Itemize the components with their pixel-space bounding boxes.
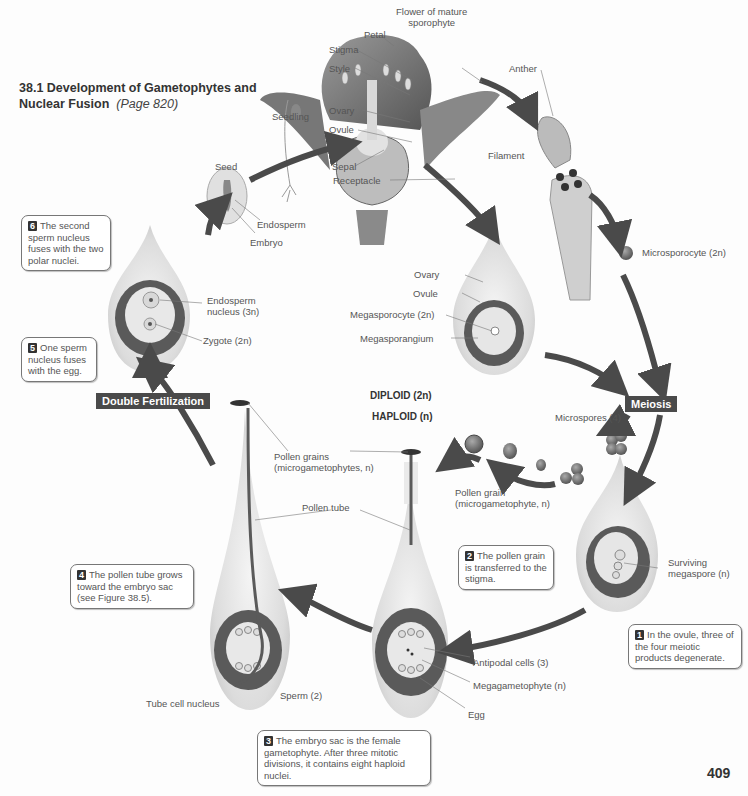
label-egg: Egg <box>468 709 485 720</box>
label-stigma: Stigma <box>329 44 359 55</box>
surviving-megaspore-ovule-illustration <box>576 455 658 612</box>
microsporocyte-cell <box>619 246 633 260</box>
label-style: Style <box>329 63 350 74</box>
haploid-legend: HAPLOID (n) <box>372 411 433 422</box>
label-filament: Filament <box>488 150 524 161</box>
page-reference: (Page 820) <box>116 97 178 111</box>
label-anther: Anther <box>509 63 537 74</box>
label-seed: Seed <box>215 161 237 172</box>
label-antipodal-cells: Antipodal cells (3) <box>473 657 549 668</box>
label-embryo: Embryo <box>250 237 283 248</box>
callout-step-6: 6The second sperm nucleus fuses with the… <box>21 215 111 271</box>
developing-microspores <box>465 435 584 485</box>
label-ovule-flower: Ovule <box>329 124 354 135</box>
title-line-2: Nuclear Fusion <box>19 97 109 111</box>
label-surviving-megaspore: Survivingmegaspore (n) <box>668 557 730 579</box>
label-zygote: Zygote (2n) <box>203 335 252 346</box>
meiosis-tag: Meiosis <box>625 396 677 412</box>
anther-illustration <box>538 117 592 300</box>
callout-step-3: 3The embryo sac is the female gametophyt… <box>257 730 431 786</box>
megasporocyte-ovule-illustration <box>453 225 535 375</box>
label-sepal: Sepal <box>332 161 356 172</box>
label-ovary-flower: Ovary <box>329 105 354 116</box>
label-petal: Petal <box>364 29 386 40</box>
step-number-badge: 3 <box>264 736 273 746</box>
callout-step-4: 4The pollen tube grows toward the embryo… <box>70 564 194 609</box>
label-endosperm: Endosperm <box>257 219 306 230</box>
callout-step-2: 2The pollen grain is transferred to the … <box>458 545 554 590</box>
label-tube-cell-nucleus: Tube cell nucleus <box>146 698 220 709</box>
flower-caption: Flower of maturesporophyte <box>396 6 467 28</box>
figure-title: 38.1 Development of Gametophytes and Nuc… <box>19 80 257 112</box>
label-pollen-grains: Pollen grains(microgametophytes, n) <box>274 451 374 473</box>
label-endosperm-nucleus: Endospermnucleus (3n) <box>207 295 259 317</box>
label-megasporangium: Megasporangium <box>360 333 433 344</box>
megagametophyte-ovule-illustration <box>372 449 448 718</box>
flower-illustration <box>260 35 500 245</box>
label-pollen-tube: Pollen tube <box>302 502 350 513</box>
page-number: 409 <box>707 765 730 781</box>
label-receptacle: Receptacle <box>333 175 381 186</box>
fertilized-ovule-illustration <box>108 225 190 372</box>
label-megagametophyte: Megagametophyte (n) <box>473 680 566 691</box>
label-megasporocyte: Megasporocyte (2n) <box>350 309 434 320</box>
label-sperm: Sperm (2) <box>280 690 322 701</box>
label-microsporocyte: Microsporocyte (2n) <box>642 247 726 258</box>
microspore-tetrad <box>606 430 627 455</box>
pollen-tube-ovule-illustration <box>210 400 290 710</box>
diploid-legend: DIPLOID (2n) <box>370 390 432 401</box>
title-line-1: 38.1 Development of Gametophytes and <box>19 80 257 96</box>
step-number-badge: 2 <box>465 551 474 561</box>
step-number-badge: 6 <box>28 221 37 231</box>
label-microspores: Microspores (4) <box>555 412 621 423</box>
callout-step-5: 5One sperm nucleus fuses with the egg. <box>21 337 97 382</box>
label-pollen-grain: Pollen grain(microgametophyte, n) <box>455 487 550 509</box>
callout-step-1: 1In the ovule, three of the four meiotic… <box>628 624 742 669</box>
double-fertilization-tag: Double Fertilization <box>96 393 210 409</box>
textbook-page: 38.1 Development of Gametophytes and Nuc… <box>0 0 748 796</box>
label-seedling: Seedling <box>272 111 309 122</box>
label-ovary-ovule: Ovary <box>414 269 439 280</box>
label-ovule: Ovule <box>413 288 438 299</box>
step-number-badge: 1 <box>635 630 644 640</box>
step-number-badge: 5 <box>28 343 37 353</box>
step-number-badge: 4 <box>77 570 86 580</box>
